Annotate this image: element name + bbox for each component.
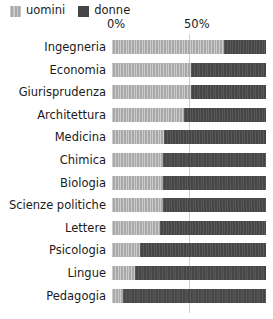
category-label: Scienze politiche: [0, 200, 106, 212]
category-label: Lingue: [0, 268, 106, 280]
bar-segment-uomini: [112, 289, 123, 303]
bar-row: [112, 153, 266, 167]
x-axis-tick-0: 0%: [107, 19, 125, 31]
bar-segment-donne: [123, 289, 266, 303]
bar-segment-donne: [163, 198, 266, 212]
bar-row: [112, 289, 266, 303]
bar-row: [112, 243, 266, 257]
bar-segment-uomini: [112, 85, 191, 99]
bar-segment-donne: [224, 40, 266, 54]
stacked-bar-chart: uomini donne 0% 50% IngegneriaEconomiaGi…: [0, 0, 273, 319]
legend-item-donne: donne: [78, 5, 130, 17]
bar-segment-uomini: [112, 153, 163, 167]
bar-segment-donne: [160, 221, 266, 235]
bar-segment-donne: [140, 243, 266, 257]
category-label: Psicologia: [0, 245, 106, 257]
legend-item-uomini: uomini: [10, 5, 65, 17]
category-label: Biologia: [0, 178, 106, 190]
category-label: Lettere: [0, 223, 106, 235]
bar-segment-uomini: [112, 130, 164, 144]
bar-segment-donne: [135, 266, 266, 280]
legend-label-donne: donne: [94, 5, 130, 17]
bar-row: [112, 108, 266, 122]
plot-area: [112, 36, 266, 313]
category-label: Pedagogia: [0, 291, 106, 303]
bar-segment-uomini: [112, 63, 191, 77]
bar-segment-uomini: [112, 243, 140, 257]
bar-segment-donne: [164, 130, 266, 144]
bar-segment-donne: [163, 153, 266, 167]
bar-row: [112, 85, 266, 99]
bar-segment-donne: [191, 85, 266, 99]
bar-segment-donne: [184, 108, 266, 122]
legend-swatch-uomini-icon: [10, 6, 21, 17]
category-label: Architettura: [0, 110, 106, 122]
bar-row: [112, 221, 266, 235]
bar-row: [112, 176, 266, 190]
bar-segment-uomini: [112, 266, 135, 280]
category-label: Economia: [0, 65, 106, 77]
bar-segment-uomini: [112, 176, 163, 190]
bar-row: [112, 130, 266, 144]
category-label: Medicina: [0, 132, 106, 144]
legend-swatch-donne-icon: [78, 6, 89, 17]
bar-segment-uomini: [112, 221, 160, 235]
bar-row: [112, 266, 266, 280]
x-axis-tick-50: 50%: [184, 19, 210, 31]
category-label: Giurisprudenza: [0, 87, 106, 99]
bar-row: [112, 63, 266, 77]
bar-row: [112, 40, 266, 54]
bar-segment-uomini: [112, 108, 184, 122]
bar-segment-uomini: [112, 198, 163, 212]
legend-label-uomini: uomini: [26, 5, 65, 17]
category-label: Chimica: [0, 155, 106, 167]
bar-segment-uomini: [112, 40, 224, 54]
bar-segment-donne: [163, 176, 266, 190]
bar-segment-donne: [191, 63, 266, 77]
bar-row: [112, 198, 266, 212]
category-label: Ingegneria: [0, 42, 106, 54]
